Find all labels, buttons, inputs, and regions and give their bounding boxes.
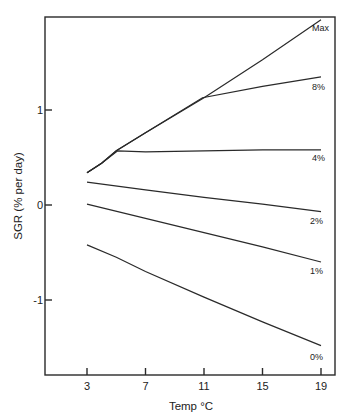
y-axis-title: SGR (% per day) [12,152,24,240]
series-label: 1% [310,266,323,276]
series-line-4pct [87,150,321,173]
y-axis-ticks: 10-1 [33,104,52,306]
sgr-temperature-chart: 37111519 10-1 Max8%4%2%1%0% Temp °C SGR … [0,0,351,419]
series-lines [87,20,321,346]
x-axis-ticks: 37111519 [84,368,327,392]
series-line-1pct [87,204,321,262]
series-label: 2% [310,216,323,226]
x-tick-label: 19 [315,380,327,392]
y-tick-label: 1 [37,104,43,116]
x-tick-label: 7 [142,380,148,392]
series-label: Max [312,23,330,33]
series-line-8pct [87,77,321,173]
series-line-0pct [87,245,321,346]
x-axis-title: Temp °C [169,400,213,412]
x-tick-label: 11 [198,380,209,392]
x-tick-label: 3 [84,380,90,392]
series-line-2pct [87,182,321,212]
x-tick-label: 15 [256,380,268,392]
series-label: 4% [312,153,325,163]
series-label: 0% [310,352,323,362]
y-tick-label: -1 [33,294,43,306]
series-labels: Max8%4%2%1%0% [310,23,330,362]
y-tick-label: 0 [37,199,43,211]
series-label: 8% [312,82,325,92]
